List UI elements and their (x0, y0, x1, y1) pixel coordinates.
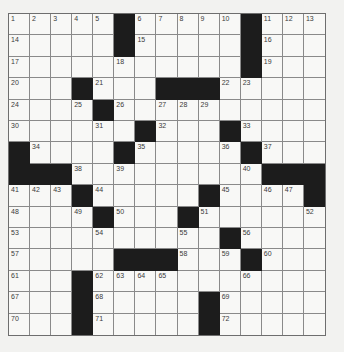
crossword-cell[interactable]: 58 (178, 249, 199, 270)
crossword-cell[interactable]: 17 (9, 57, 30, 78)
crossword-cell[interactable] (156, 314, 177, 335)
crossword-cell[interactable] (262, 228, 283, 249)
crossword-cell[interactable]: 59 (220, 249, 241, 270)
crossword-cell[interactable] (283, 292, 304, 313)
crossword-cell[interactable]: 5 (93, 14, 114, 35)
crossword-cell[interactable] (135, 185, 156, 206)
crossword-cell[interactable]: 56 (241, 228, 262, 249)
crossword-cell[interactable]: 9 (199, 14, 220, 35)
crossword-cell[interactable] (283, 142, 304, 163)
crossword-cell[interactable] (30, 207, 51, 228)
crossword-cell[interactable]: 72 (220, 314, 241, 335)
crossword-cell[interactable] (30, 78, 51, 99)
crossword-cell[interactable] (304, 228, 325, 249)
crossword-cell[interactable]: 63 (114, 271, 135, 292)
crossword-cell[interactable] (178, 271, 199, 292)
crossword-cell[interactable]: 54 (93, 228, 114, 249)
crossword-cell[interactable] (262, 314, 283, 335)
crossword-cell[interactable] (220, 57, 241, 78)
crossword-cell[interactable]: 38 (72, 164, 93, 185)
crossword-cell[interactable] (135, 292, 156, 313)
crossword-cell[interactable] (156, 207, 177, 228)
crossword-cell[interactable] (93, 164, 114, 185)
crossword-cell[interactable] (156, 292, 177, 313)
crossword-cell[interactable]: 21 (93, 78, 114, 99)
crossword-cell[interactable] (304, 100, 325, 121)
crossword-cell[interactable] (156, 228, 177, 249)
crossword-cell[interactable] (304, 249, 325, 270)
crossword-cell[interactable] (241, 100, 262, 121)
crossword-cell[interactable]: 32 (156, 121, 177, 142)
crossword-cell[interactable] (51, 249, 72, 270)
crossword-cell[interactable]: 3 (51, 14, 72, 35)
crossword-cell[interactable] (114, 292, 135, 313)
crossword-cell[interactable] (283, 228, 304, 249)
crossword-cell[interactable] (304, 57, 325, 78)
crossword-cell[interactable] (135, 314, 156, 335)
crossword-cell[interactable] (135, 78, 156, 99)
crossword-cell[interactable] (199, 249, 220, 270)
crossword-cell[interactable] (283, 57, 304, 78)
crossword-cell[interactable]: 13 (304, 14, 325, 35)
crossword-cell[interactable]: 64 (135, 271, 156, 292)
crossword-cell[interactable]: 24 (9, 100, 30, 121)
crossword-cell[interactable] (30, 121, 51, 142)
crossword-cell[interactable] (135, 228, 156, 249)
crossword-cell[interactable] (156, 57, 177, 78)
crossword-cell[interactable] (241, 292, 262, 313)
crossword-cell[interactable]: 20 (9, 78, 30, 99)
crossword-cell[interactable]: 6 (135, 14, 156, 35)
crossword-cell[interactable] (241, 185, 262, 206)
crossword-cell[interactable] (30, 100, 51, 121)
crossword-cell[interactable]: 52 (304, 207, 325, 228)
crossword-cell[interactable] (51, 35, 72, 56)
crossword-cell[interactable]: 23 (241, 78, 262, 99)
crossword-cell[interactable] (135, 164, 156, 185)
crossword-cell[interactable]: 62 (93, 271, 114, 292)
crossword-cell[interactable] (199, 164, 220, 185)
crossword-cell[interactable]: 29 (199, 100, 220, 121)
crossword-cell[interactable] (220, 164, 241, 185)
crossword-cell[interactable] (199, 142, 220, 163)
crossword-cell[interactable] (51, 78, 72, 99)
crossword-cell[interactable] (72, 35, 93, 56)
crossword-cell[interactable] (178, 121, 199, 142)
crossword-cell[interactable] (304, 271, 325, 292)
crossword-cell[interactable]: 33 (241, 121, 262, 142)
crossword-cell[interactable] (199, 121, 220, 142)
crossword-cell[interactable] (220, 271, 241, 292)
crossword-cell[interactable] (304, 35, 325, 56)
crossword-cell[interactable] (220, 100, 241, 121)
crossword-cell[interactable] (304, 292, 325, 313)
crossword-cell[interactable]: 48 (9, 207, 30, 228)
crossword-cell[interactable] (72, 57, 93, 78)
crossword-cell[interactable] (51, 121, 72, 142)
crossword-cell[interactable]: 28 (178, 100, 199, 121)
crossword-cell[interactable]: 11 (262, 14, 283, 35)
crossword-cell[interactable]: 14 (9, 35, 30, 56)
crossword-cell[interactable]: 7 (156, 14, 177, 35)
crossword-cell[interactable]: 35 (135, 142, 156, 163)
crossword-cell[interactable]: 25 (72, 100, 93, 121)
crossword-cell[interactable]: 8 (178, 14, 199, 35)
crossword-cell[interactable]: 50 (114, 207, 135, 228)
crossword-cell[interactable] (262, 292, 283, 313)
crossword-cell[interactable]: 43 (51, 185, 72, 206)
crossword-cell[interactable] (283, 100, 304, 121)
crossword-cell[interactable] (304, 314, 325, 335)
crossword-cell[interactable] (93, 142, 114, 163)
crossword-cell[interactable] (178, 35, 199, 56)
crossword-cell[interactable] (72, 121, 93, 142)
crossword-cell[interactable]: 66 (241, 271, 262, 292)
crossword-cell[interactable] (199, 57, 220, 78)
crossword-cell[interactable]: 26 (114, 100, 135, 121)
crossword-cell[interactable]: 40 (241, 164, 262, 185)
crossword-cell[interactable]: 27 (156, 100, 177, 121)
crossword-cell[interactable] (283, 249, 304, 270)
crossword-cell[interactable]: 65 (156, 271, 177, 292)
crossword-cell[interactable] (283, 78, 304, 99)
crossword-cell[interactable]: 47 (283, 185, 304, 206)
crossword-cell[interactable] (93, 249, 114, 270)
crossword-cell[interactable]: 46 (262, 185, 283, 206)
crossword-cell[interactable] (156, 164, 177, 185)
